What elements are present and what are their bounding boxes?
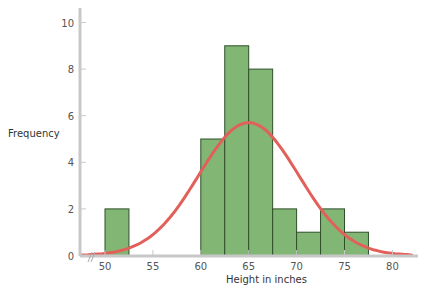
x-tick-label: 65 bbox=[242, 261, 255, 272]
x-tick-label: 55 bbox=[147, 261, 160, 272]
x-tick-label: 75 bbox=[338, 261, 351, 272]
y-axis-title: Frequency bbox=[8, 128, 60, 139]
x-tick-label: 70 bbox=[290, 261, 303, 272]
y-tick-label: 10 bbox=[61, 18, 74, 29]
x-tick-label: 80 bbox=[386, 261, 399, 272]
y-tick-label: 4 bbox=[68, 157, 74, 168]
x-tick-label: 60 bbox=[194, 261, 207, 272]
histogram-bar bbox=[297, 232, 321, 255]
histogram-bar bbox=[249, 69, 273, 255]
histogram-chart: 0246810 50556065707580 Frequency Height … bbox=[0, 0, 448, 299]
histogram-bar bbox=[225, 46, 249, 256]
histogram-bars bbox=[105, 46, 368, 256]
x-axis-title: Height in inches bbox=[226, 274, 307, 285]
x-tick-label: 50 bbox=[99, 261, 112, 272]
y-tick-label: 0 bbox=[68, 251, 74, 262]
y-tick-label: 2 bbox=[68, 204, 74, 215]
histogram-bar bbox=[273, 209, 297, 256]
y-axis-ticks: 0246810 bbox=[61, 18, 86, 262]
y-tick-label: 6 bbox=[68, 111, 74, 122]
y-tick-label: 8 bbox=[68, 64, 74, 75]
histogram-bar bbox=[201, 139, 225, 256]
